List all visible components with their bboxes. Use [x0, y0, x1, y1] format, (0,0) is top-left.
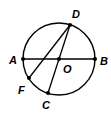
point-o — [57, 57, 61, 61]
label-a: A — [8, 54, 17, 66]
label-c: C — [42, 99, 51, 111]
point-a — [21, 57, 25, 61]
point-c — [46, 91, 50, 95]
label-d: D — [72, 8, 80, 20]
point-d — [68, 23, 72, 27]
label-f: F — [18, 84, 25, 96]
circle-diagram: A B D O F C — [0, 0, 111, 124]
label-b: B — [100, 55, 108, 67]
point-b — [93, 57, 97, 61]
point-f — [27, 76, 31, 80]
label-o: O — [63, 63, 72, 75]
